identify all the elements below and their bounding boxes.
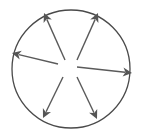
arrow-right-shaft <box>77 67 125 72</box>
boundary-circle <box>12 10 130 128</box>
arrow-right <box>77 67 132 77</box>
radial-arrows-diagram <box>0 0 142 139</box>
arrow-down-left-shaft <box>46 77 63 112</box>
arrow-down-right <box>77 77 97 119</box>
arrow-up-left <box>44 13 65 60</box>
arrow-up-left-shaft <box>47 19 65 60</box>
arrow-left <box>12 51 58 64</box>
arrow-down-left <box>43 77 63 118</box>
arrow-up-right-shaft <box>77 19 95 60</box>
arrow-left-shaft <box>19 55 58 64</box>
arrow-down-right-shaft <box>77 77 94 113</box>
arrow-up-right <box>77 13 98 60</box>
